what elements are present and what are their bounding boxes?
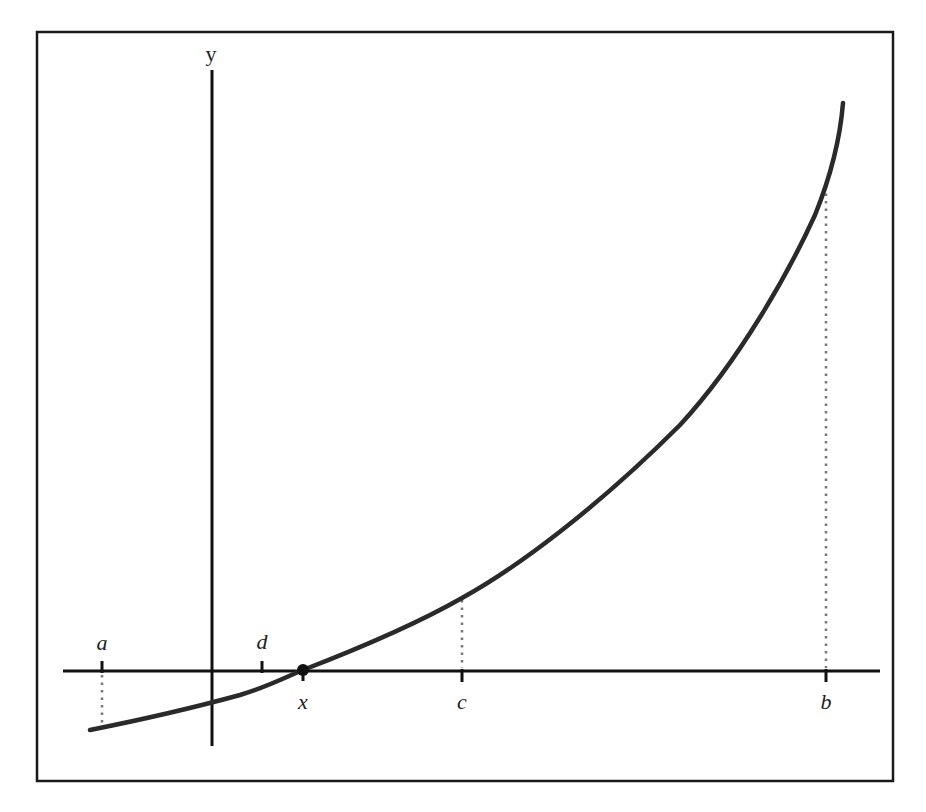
- root-point-marker: [297, 664, 309, 676]
- label-a: a: [97, 630, 108, 655]
- function-curve: [90, 103, 843, 730]
- figure-frame: [37, 32, 893, 781]
- label-b: b: [821, 689, 832, 714]
- label-x: x: [297, 689, 308, 714]
- label-d: d: [257, 629, 269, 654]
- y-axis-label: y: [206, 41, 217, 66]
- label-c: c: [457, 689, 467, 714]
- function-graph: y a d x c b: [0, 0, 926, 812]
